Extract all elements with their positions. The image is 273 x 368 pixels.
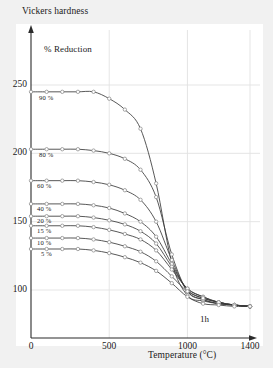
data-point-20%-700 — [139, 230, 142, 233]
data-point-60%-800 — [154, 220, 157, 223]
x-tick-label-500: 500 — [89, 341, 129, 351]
series-label-15%: 15 % — [37, 227, 52, 234]
data-point-10%-900 — [170, 275, 173, 278]
data-point-80%-400 — [92, 149, 95, 152]
data-point-40%-400 — [92, 204, 95, 207]
data-point-90%-200 — [61, 90, 64, 93]
data-point-80%-900 — [170, 253, 173, 256]
data-point-90%-700 — [139, 127, 142, 130]
data-point-90%-600 — [123, 108, 126, 111]
data-point-10%-1100 — [201, 297, 204, 300]
data-point-60%-600 — [123, 189, 126, 192]
data-point-20%-600 — [123, 223, 126, 226]
y-tick-label-250: 250 — [1, 79, 27, 89]
legend-title: % Reduction — [44, 44, 92, 54]
data-point-40%-700 — [139, 220, 142, 223]
data-point-15%-0 — [29, 224, 32, 227]
data-point-80%-200 — [61, 148, 64, 151]
series-label-80%: 80 % — [39, 151, 54, 158]
y-axis-arrow — [28, 25, 34, 33]
data-point-10%-0 — [29, 236, 32, 239]
data-point-60%-700 — [139, 198, 142, 201]
data-point-60%-200 — [61, 179, 64, 182]
data-point-40%-500 — [108, 206, 111, 209]
data-point-20%-500 — [108, 219, 111, 222]
data-point-90%-400 — [92, 90, 95, 93]
data-point-10%-400 — [92, 238, 95, 241]
series-label-40%: 40 % — [37, 205, 52, 212]
data-point-80%-0 — [29, 148, 32, 151]
data-point-20%-400 — [92, 216, 95, 219]
data-point-40%-800 — [154, 235, 157, 238]
data-point-60%-900 — [170, 258, 173, 261]
y-tick-label-150: 150 — [1, 216, 27, 226]
data-point-60%-0 — [29, 179, 32, 182]
data-point-10%-800 — [154, 260, 157, 263]
data-point-5%-1300 — [233, 305, 236, 308]
chart-figure: Vickers hardness Temperature (°C) % Redu… — [0, 0, 273, 368]
data-point-5%-500 — [108, 251, 111, 254]
data-point-10%-200 — [61, 236, 64, 239]
data-point-15%-900 — [170, 268, 173, 271]
data-point-5%-1400 — [248, 305, 251, 308]
data-point-90%-500 — [108, 97, 111, 100]
series-label-10%: 10 % — [37, 239, 52, 246]
data-point-90%-300 — [76, 90, 79, 93]
series-label-20%: 20 % — [37, 217, 52, 224]
series-line-5% — [31, 249, 250, 307]
data-point-10%-700 — [139, 250, 142, 253]
y-tick-label-200: 200 — [1, 147, 27, 157]
data-point-20%-300 — [76, 215, 79, 218]
x-tick-label-0: 0 — [11, 341, 51, 351]
data-point-20%-0 — [29, 215, 32, 218]
data-point-20%-200 — [61, 215, 64, 218]
data-point-5%-200 — [61, 247, 64, 250]
series-line-40% — [31, 204, 250, 307]
data-point-5%-800 — [154, 269, 157, 272]
data-point-60%-500 — [108, 183, 111, 186]
data-point-40%-600 — [123, 212, 126, 215]
data-point-5%-1000 — [186, 295, 189, 298]
gridlines — [31, 30, 260, 338]
data-point-60%-300 — [76, 179, 79, 182]
data-point-15%-200 — [61, 224, 64, 227]
data-point-5%-600 — [123, 256, 126, 259]
data-point-10%-500 — [108, 240, 111, 243]
series-line-80% — [31, 149, 250, 306]
data-point-15%-300 — [76, 224, 79, 227]
data-point-60%-400 — [92, 180, 95, 183]
series-label-90%: 90 % — [39, 94, 54, 101]
data-point-15%-600 — [123, 232, 126, 235]
data-point-15%-500 — [108, 228, 111, 231]
chart-title-vickers-hardness: Vickers hardness — [22, 6, 88, 16]
x-axis-arrow — [249, 335, 257, 341]
data-point-15%-800 — [154, 249, 157, 252]
marker-layer — [29, 90, 251, 308]
y-tick-label-100: 100 — [1, 284, 27, 294]
data-point-20%-800 — [154, 242, 157, 245]
series-label-5%: 5 % — [41, 250, 52, 257]
data-point-10%-600 — [123, 245, 126, 248]
data-point-90%-800 — [154, 182, 157, 185]
data-point-5%-700 — [139, 261, 142, 264]
data-point-80%-500 — [108, 152, 111, 155]
data-point-15%-700 — [139, 238, 142, 241]
data-point-5%-0 — [29, 247, 32, 250]
data-point-80%-600 — [123, 157, 126, 160]
series-label-60%: 60 % — [37, 182, 52, 189]
x-tick-label-1400: 1400 — [230, 341, 270, 351]
data-point-90%-0 — [29, 90, 32, 93]
annotation-duration: 1h — [200, 314, 209, 324]
x-axis-title: Temperature (°C) — [148, 350, 216, 360]
data-point-40%-200 — [61, 202, 64, 205]
data-point-5%-1200 — [217, 303, 220, 306]
data-point-5%-300 — [76, 247, 79, 250]
data-point-40%-0 — [29, 202, 32, 205]
data-point-80%-800 — [154, 195, 157, 198]
axis-lines — [28, 25, 257, 341]
x-tick-label-1000: 1000 — [167, 341, 207, 351]
data-point-5%-1100 — [201, 302, 204, 305]
data-point-80%-700 — [139, 168, 142, 171]
data-point-80%-300 — [76, 148, 79, 151]
data-point-15%-400 — [92, 225, 95, 228]
